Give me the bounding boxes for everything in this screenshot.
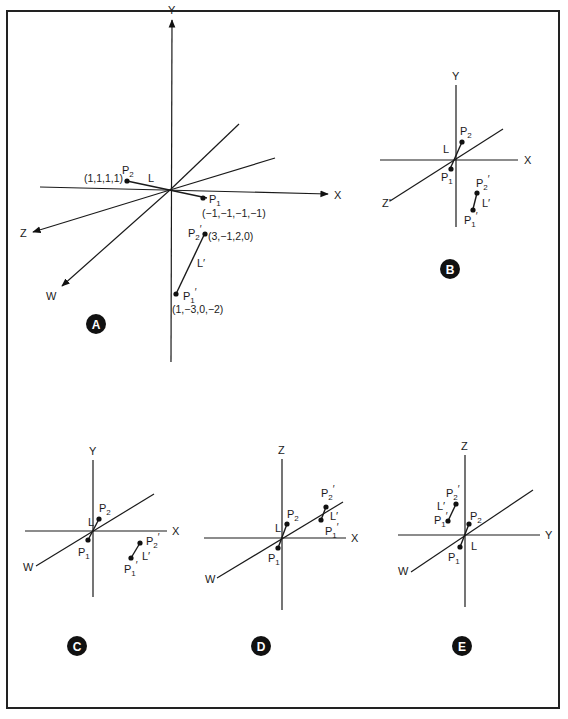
point-p2	[459, 139, 464, 144]
svg-text:E: E	[458, 640, 466, 654]
point-p1-prime	[173, 291, 178, 296]
point-label-p2: P2	[99, 502, 111, 517]
point-p2	[96, 516, 101, 521]
point-label-p1-prime: P1′	[124, 560, 138, 578]
point-label-p2: P2	[122, 164, 134, 179]
panel-badge-c: C	[67, 636, 87, 656]
panel-badge-d: D	[251, 636, 271, 656]
point-label-p2: P2	[470, 510, 482, 525]
segment-label-l-prime: L′	[482, 197, 490, 209]
projection-diagram: YXZWLL′P2(1,1,1,1)P1(−1,−1,−1,−1)P2′(3,−…	[0, 0, 568, 719]
axis-label-w: W	[46, 290, 57, 302]
point-p1	[85, 537, 90, 542]
segment-label-l: L	[471, 540, 477, 552]
segment-label-l-prime: L′	[330, 510, 338, 522]
svg-text:D: D	[257, 640, 266, 654]
panel-badge-e: E	[452, 636, 472, 656]
segment-label-l: L	[275, 522, 281, 534]
panel-badge-b: B	[440, 259, 460, 279]
axis-w-neg	[170, 158, 275, 190]
point-p2-prime	[474, 190, 479, 195]
axis-label-z: Z	[20, 227, 27, 239]
point-label-p2-prime: P2′	[476, 174, 490, 192]
panel-badge-a: A	[86, 314, 106, 334]
point-p1	[448, 166, 453, 171]
panel-b: YXZ′LL′P2P1P2′P1′B	[380, 70, 532, 279]
point-p2-prime	[202, 231, 207, 236]
point-p1-prime	[318, 517, 323, 522]
axis-label-y: Y	[545, 529, 553, 541]
point-label-p2: P2	[460, 125, 472, 140]
axis-label-y: Y	[89, 445, 97, 457]
axis-label-x: X	[351, 532, 359, 544]
axis-label-z: Z	[461, 440, 468, 452]
point-label-p2: P2	[287, 508, 299, 523]
panel-c: YXWLL′P2P1P2′P1′C	[23, 445, 180, 656]
point-p2	[124, 178, 129, 183]
svg-text:A: A	[92, 318, 101, 332]
point-label-p1: P1	[441, 171, 453, 186]
segment-l-prime	[448, 504, 456, 521]
axis-label-z: Z	[278, 444, 285, 456]
svg-text:B: B	[446, 263, 455, 277]
axis-label-x: X	[524, 154, 532, 166]
point-p1	[457, 544, 462, 549]
axis-label-y: Y	[168, 4, 176, 16]
axis-z	[33, 190, 170, 232]
point-label-p1: P1	[78, 546, 90, 561]
point-p1	[275, 545, 280, 550]
segment-label-l: L	[443, 143, 449, 155]
point-label-p2-prime: P2′	[321, 484, 335, 502]
segment-label-l-prime: L′	[197, 257, 205, 269]
point-label-p1-prime: P1′	[434, 511, 448, 529]
segment-l-prime	[131, 543, 140, 558]
point-p2	[466, 521, 471, 526]
panel-e: ZYWLL′P2P1P2′P1′E	[398, 440, 553, 656]
axis-label-y: Y	[452, 70, 460, 82]
coord-label-p2: (1,1,1,1)	[84, 172, 123, 184]
point-label-p1: P1	[448, 551, 460, 566]
point-p2	[284, 521, 289, 526]
svg-text:C: C	[73, 640, 82, 654]
coord-label-p1: (−1,−1,−1,−1)	[202, 207, 266, 219]
segment-label-l: L	[148, 172, 154, 184]
panel-a: YXZWLL′P2(1,1,1,1)P1(−1,−1,−1,−1)P2′(3,−…	[20, 4, 342, 362]
axis-label-w: W	[398, 565, 409, 577]
axis-w	[62, 190, 170, 286]
point-p2-prime	[137, 540, 142, 545]
axis-w	[36, 494, 154, 566]
axis-label-x: X	[172, 525, 180, 537]
point-label-p2-prime: P2′	[146, 532, 160, 550]
point-label-p1: P1	[209, 193, 221, 208]
panel-d: ZXWLL′P2P1P2′P1′D	[204, 444, 359, 656]
point-p1-prime	[128, 555, 133, 560]
point-p1	[200, 195, 205, 200]
point-label-p2-prime: P2′	[446, 484, 460, 502]
segment-label-l: L	[88, 516, 94, 528]
segment-label-l-prime: L′	[142, 550, 150, 562]
point-label-p1-prime: P1′	[325, 522, 339, 540]
coord-label-p2-prime: (3,−1,2,0)	[208, 230, 253, 242]
axis-label-w: W	[205, 573, 216, 585]
point-label-p1: P1	[268, 552, 280, 567]
point-p2-prime	[453, 501, 458, 506]
point-label-p1-prime: P1′	[464, 211, 478, 229]
axis-label-x: X	[334, 189, 342, 201]
axis-w	[411, 490, 533, 572]
point-label-p2-prime: P2′	[188, 224, 202, 242]
segment-label-l-prime: L′	[437, 500, 445, 512]
coord-label-p1-prime: (1,−3,0,−2)	[172, 303, 223, 315]
axis-label-w: W	[23, 561, 34, 573]
point-p2-prime	[323, 504, 328, 509]
axis-label-z: Z′	[382, 197, 391, 209]
